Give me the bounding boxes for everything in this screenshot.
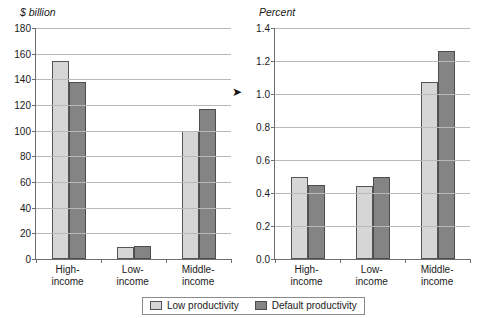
category-label-line: income xyxy=(356,276,388,288)
category-label-line: income xyxy=(51,276,83,288)
y-tick-mark xyxy=(271,61,275,62)
y-tick-label: 120 xyxy=(14,100,31,111)
gridline xyxy=(36,208,231,209)
plot-area-right: 0.00.20.40.60.81.01.21.4 xyxy=(274,28,470,260)
bar xyxy=(52,61,69,259)
category-label-line: Middle- xyxy=(421,264,454,276)
bar xyxy=(182,131,199,259)
y-tick-label: 1.0 xyxy=(256,89,270,100)
y-tick-mark xyxy=(271,28,275,29)
gridline xyxy=(275,94,470,95)
y-tick-mark xyxy=(32,79,36,80)
x-tick-mark xyxy=(36,259,37,263)
y-tick-label: 60 xyxy=(20,177,31,188)
gridline xyxy=(36,105,231,106)
legend-swatch xyxy=(150,301,162,310)
category-label-line: High- xyxy=(290,264,322,276)
x-axis-category-label: Middle-income xyxy=(421,264,454,288)
y-tick-label: 160 xyxy=(14,48,31,59)
y-tick-mark xyxy=(32,28,36,29)
y-tick-label: 0.6 xyxy=(256,155,270,166)
y-tick-mark xyxy=(271,160,275,161)
y-tick-mark xyxy=(271,193,275,194)
y-tick-label: 100 xyxy=(14,125,31,136)
bar-group xyxy=(52,28,86,259)
x-tick-mark xyxy=(275,259,276,263)
category-label-line: income xyxy=(290,276,322,288)
legend-label: Low productivity xyxy=(167,300,239,311)
y-axis-label-right: Percent xyxy=(259,6,295,18)
bar xyxy=(356,186,373,259)
x-axis-category-label: High-income xyxy=(51,264,83,288)
gridline xyxy=(36,259,231,260)
x-tick-mark xyxy=(470,259,471,263)
y-tick-label: 40 xyxy=(20,202,31,213)
category-label-line: income xyxy=(182,276,215,288)
x-tick-mark xyxy=(166,259,167,263)
gridline xyxy=(36,233,231,234)
gridline xyxy=(36,182,231,183)
bar xyxy=(134,246,151,259)
y-tick-mark xyxy=(271,226,275,227)
y-tick-label: 0.0 xyxy=(256,254,270,265)
bar xyxy=(291,177,308,260)
x-tick-mark xyxy=(101,259,102,263)
x-axis-category-label: Low-income xyxy=(117,264,149,288)
bar xyxy=(308,185,325,259)
category-label-line: Low- xyxy=(356,264,388,276)
x-axis-categories-left: High-incomeLow-incomeMiddle-income xyxy=(35,264,231,288)
gridline xyxy=(275,259,470,260)
y-tick-mark xyxy=(271,94,275,95)
gridline xyxy=(275,160,470,161)
gridline xyxy=(275,226,470,227)
category-label-line: income xyxy=(117,276,149,288)
gridline xyxy=(275,28,470,29)
figure: $ billion 020406080100120140160180 High-… xyxy=(0,0,481,318)
y-tick-mark xyxy=(32,208,36,209)
bar-group xyxy=(117,28,151,259)
legend-swatch xyxy=(255,301,267,310)
x-axis-category-label: Low-income xyxy=(356,264,388,288)
category-label-line: High- xyxy=(51,264,83,276)
y-tick-mark xyxy=(32,54,36,55)
y-tick-label: 1.4 xyxy=(256,23,270,34)
figure-title xyxy=(0,0,481,3)
x-axis-categories-right: High-incomeLow-incomeMiddle-income xyxy=(274,264,470,288)
y-tick-label: 80 xyxy=(20,151,31,162)
bar xyxy=(421,82,438,259)
bar-groups-left xyxy=(36,28,231,259)
gridline xyxy=(36,54,231,55)
x-tick-mark xyxy=(340,259,341,263)
legend-item: Default productivity xyxy=(255,300,357,311)
x-tick-mark xyxy=(405,259,406,263)
chart-panel-left: $ billion 020406080100120140160180 High-… xyxy=(2,6,235,291)
y-tick-label: 0.2 xyxy=(256,221,270,232)
bar xyxy=(438,51,455,259)
bar-group xyxy=(182,28,216,259)
legend-item: Low productivity xyxy=(150,300,239,311)
y-tick-mark xyxy=(271,127,275,128)
y-tick-label: 140 xyxy=(14,74,31,85)
y-tick-mark xyxy=(32,105,36,106)
bar-groups-right xyxy=(275,28,470,259)
category-label-line: Middle- xyxy=(182,264,215,276)
gridline xyxy=(275,193,470,194)
y-tick-mark xyxy=(32,182,36,183)
y-tick-label: 0.4 xyxy=(256,188,270,199)
plot-area-left: 020406080100120140160180 xyxy=(35,28,231,260)
bar-group xyxy=(291,28,325,259)
x-axis-category-label: High-income xyxy=(290,264,322,288)
legend: Low productivityDefault productivity xyxy=(142,297,365,315)
y-tick-label: 0.8 xyxy=(256,122,270,133)
legend-label: Default productivity xyxy=(272,300,357,311)
category-label-line: Low- xyxy=(117,264,149,276)
y-tick-label: 20 xyxy=(20,228,31,239)
bar-group xyxy=(356,28,390,259)
x-tick-mark xyxy=(231,259,232,263)
y-tick-mark xyxy=(32,131,36,132)
chart-panel-right: Percent 0.00.20.40.60.81.01.21.4 High-in… xyxy=(241,6,474,291)
y-tick-label: 0 xyxy=(25,254,31,265)
gridline xyxy=(275,127,470,128)
bar xyxy=(117,247,134,259)
y-tick-mark xyxy=(32,233,36,234)
